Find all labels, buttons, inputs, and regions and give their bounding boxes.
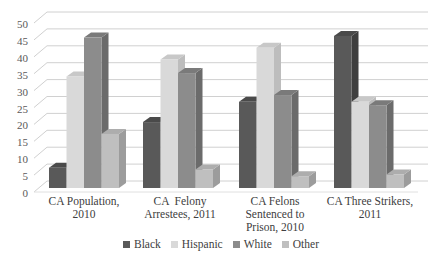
legend-label: White [244,238,272,250]
bar-chart [0,0,442,260]
legend-swatch-black [123,241,130,248]
y-tick-label: 35 [6,69,28,81]
legend-item-white: White [233,238,272,250]
bar-other [196,164,221,188]
legend-item-black: Black [123,238,161,250]
y-tick-label: 50 [6,18,28,30]
legend-label: Black [134,238,161,250]
y-tick-label: 30 [6,86,28,98]
y-tick-label: 40 [6,52,28,64]
y-tick-label: 45 [6,35,28,47]
bar-white [274,90,299,188]
legend-swatch-hispanic [171,241,178,248]
x-category-label: CA Population,2010 [36,195,132,221]
legend-item-hispanic: Hispanic [171,238,223,250]
legend-item-other: Other [282,238,319,250]
legend: Black Hispanic White Other [0,238,442,250]
legend-swatch-other [282,241,289,248]
y-tick-label: 5 [6,170,28,182]
legend-label: Hispanic [182,238,223,250]
bar-other [292,171,317,188]
y-tick-label: 25 [6,103,28,115]
x-category-label: CA FelonsSentenced toPrison, 2010 [227,195,323,234]
legend-label: Other [293,238,319,250]
y-tick-label: 10 [6,153,28,165]
legend-swatch-white [233,241,240,248]
y-tick-label: 0 [6,187,28,199]
x-category-label: CA FelonyArrestees, 2011 [132,195,228,221]
y-tick-label: 20 [6,119,28,131]
y-tick-label: 15 [6,136,28,148]
bar-other [102,129,127,188]
bar-other [387,169,412,188]
x-category-label: CA Three Strikers,2011 [322,195,418,221]
